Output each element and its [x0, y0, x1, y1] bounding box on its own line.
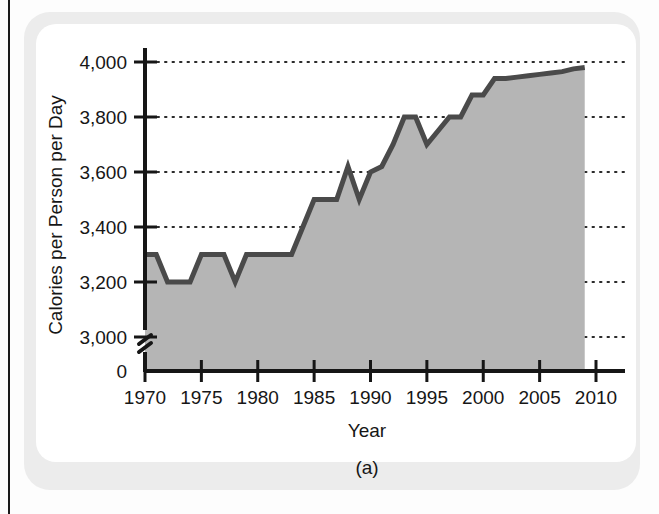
- chart-area: 3,0003,2003,4003,6003,8004,0000 19701975…: [0, 0, 659, 514]
- x-axis-tick-label: 1995: [406, 387, 448, 408]
- y-axis-tick-label: 4,000: [79, 52, 127, 73]
- x-axis-tick-label: 1990: [349, 387, 391, 408]
- x-axis-tick-label: 1980: [237, 387, 279, 408]
- y-axis-zero-label: 0: [116, 361, 127, 382]
- y-axis-tick-label: 3,400: [79, 217, 127, 238]
- y-axis-tick-label: 3,600: [79, 162, 127, 183]
- x-axis-tick-label: 1970: [124, 387, 166, 408]
- area-fill: [145, 68, 585, 372]
- x-axis-tick-labels: 197019751980198519901995200020052010: [124, 387, 617, 408]
- y-axis-tick-labels: 3,0003,2003,4003,6003,8004,0000: [79, 52, 127, 382]
- x-axis-title: Year: [348, 420, 387, 441]
- y-axis-tick-label: 3,000: [79, 327, 127, 348]
- y-axis-tick-label: 3,800: [79, 107, 127, 128]
- page-background: 3,0003,2003,4003,6003,8004,0000 19701975…: [0, 0, 659, 514]
- x-axis-tick-label: 2000: [462, 387, 504, 408]
- x-axis-tick-label: 2005: [518, 387, 560, 408]
- figure-caption: (a): [355, 457, 378, 478]
- calories-per-person-area-chart: 3,0003,2003,4003,6003,8004,0000 19701975…: [0, 0, 659, 514]
- y-axis-title: Calories per Person per Day: [45, 95, 66, 335]
- x-axis-tick-label: 1985: [293, 387, 335, 408]
- x-axis-tick-label: 1975: [180, 387, 222, 408]
- y-axis-tick-label: 3,200: [79, 272, 127, 293]
- x-axis-tick-label: 2010: [575, 387, 617, 408]
